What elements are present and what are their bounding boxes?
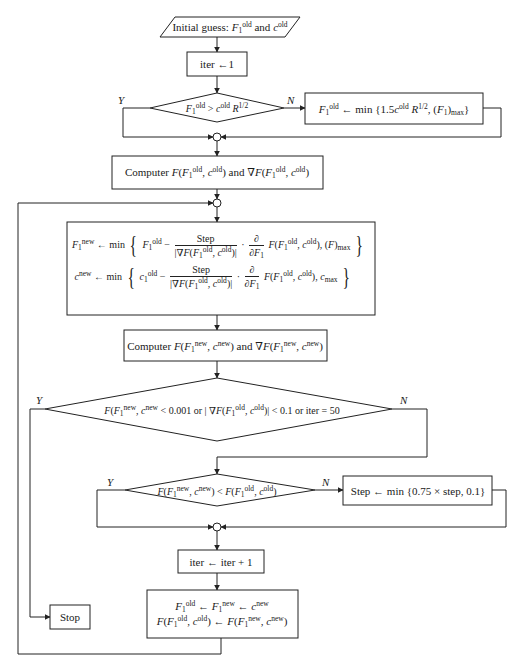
iter-inc-label: iter ← iter + 1 bbox=[189, 556, 252, 568]
step-fraction: Step|∇F(F1old, cold)| bbox=[170, 264, 232, 289]
update-line-1: F1new ← min { F1old − Step|∇F(F1old, col… bbox=[72, 231, 365, 260]
decision2-part1: < 0.001 or bbox=[158, 405, 204, 416]
merge-node-3 bbox=[213, 523, 221, 531]
merge-node-2 bbox=[213, 199, 221, 207]
start-mid: and bbox=[252, 21, 273, 33]
partial-fraction: ∂∂F1 bbox=[245, 264, 260, 289]
update-label: F1new ← min { F1old − Step|∇F(F1old, col… bbox=[72, 228, 365, 294]
compute-new-label: Computer F(F1new, cnew) and ∇F(F1new, cn… bbox=[127, 340, 323, 352]
start-label: Initial guess: F1old and cold bbox=[172, 21, 287, 33]
step-label: Step ← min {0.75 × step, 0.1} bbox=[351, 485, 485, 497]
decision3-no: N bbox=[322, 476, 329, 488]
and-word: and bbox=[237, 340, 253, 352]
init-iter-label: iter ←1 bbox=[200, 58, 234, 70]
and-word: and bbox=[229, 166, 245, 178]
decision2-part2: < 0.1 or iter = 50 bbox=[269, 405, 339, 416]
decision3-yes: Y bbox=[107, 476, 113, 488]
decision1-no: N bbox=[287, 94, 294, 106]
flowchart-canvas bbox=[0, 0, 532, 669]
decision2-no: N bbox=[400, 394, 407, 406]
min-word: min bbox=[106, 270, 122, 281]
clamp-label: F1old ← min {1.5cold R1/2, (F1)max} bbox=[319, 103, 470, 115]
update-line-2: cnew ← min { c1old − Step|∇F(F1old, cold… bbox=[72, 263, 365, 292]
decision1-yes: Y bbox=[118, 94, 124, 106]
decision1-label: F1old > cold R1/2 bbox=[186, 103, 248, 114]
decision2-yes: Y bbox=[36, 394, 42, 406]
partial-fraction: ∂∂F1 bbox=[249, 233, 264, 258]
compute-word: Computer bbox=[127, 340, 171, 352]
stop-label: Stop bbox=[60, 611, 80, 623]
swap-label: F1old ← F1new ← cnew F(F1old, cold) ← F(… bbox=[157, 597, 288, 630]
swap-line-2: F(F1old, cold) ← F(F1new, cnew) bbox=[157, 616, 288, 628]
step-fraction: Step|∇F(F1old, cold)| bbox=[175, 233, 237, 258]
decision2-label: F(F1new, cnew < 0.001 or | ∇F(F1old, col… bbox=[104, 405, 339, 416]
compute-old-label: Computer F(F1old, cold) and ∇F(F1old, co… bbox=[125, 166, 309, 178]
start-prefix: Initial guess: bbox=[172, 21, 231, 33]
compute-word: Computer bbox=[125, 166, 169, 178]
swap-line-1: F1old ← F1new ← cnew bbox=[157, 600, 288, 612]
decision3-label: F(F1new, cnew) < F(F1old, cold) bbox=[157, 486, 276, 497]
merge-node-1 bbox=[213, 133, 221, 141]
min-word: min bbox=[109, 239, 125, 250]
